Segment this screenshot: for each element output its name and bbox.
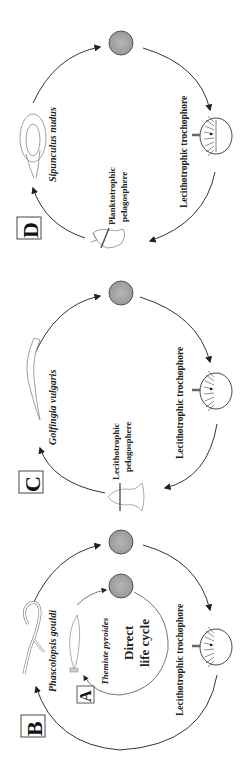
trochophore-icon bbox=[192, 116, 232, 156]
panel-c: Golfingia vulgaris Lecithotrophic trocho… bbox=[19, 281, 232, 511]
arrow-egg-to-trochophore bbox=[143, 545, 210, 610]
arrow-egg-to-trochophore bbox=[143, 48, 210, 110]
golfingia-adult-icon bbox=[27, 338, 40, 420]
sipunculus-adult-icon bbox=[20, 114, 46, 178]
panel-letter-d: D bbox=[18, 222, 43, 238]
species-label-a: Themiste pyroides bbox=[100, 617, 110, 685]
stage-label-larva-d-line2: pelagosphere bbox=[119, 172, 129, 222]
egg-icon bbox=[109, 31, 133, 55]
panel-letter-a: A bbox=[77, 690, 94, 702]
panel-letter-c: C bbox=[20, 476, 45, 492]
arrow-adult-to-egg bbox=[33, 47, 100, 103]
stage-label-larva-c-line1: Lecithotrophic bbox=[111, 423, 121, 480]
arrow-trochophore-to-adult-outer bbox=[36, 675, 217, 750]
panel-letter-b: B bbox=[22, 721, 47, 736]
stage-label-larva-d-line1: Planktotrophic bbox=[107, 167, 117, 225]
trochophore-icon bbox=[192, 371, 232, 411]
panel-b: Phascolopsis gouldi Lecithotrophic troch… bbox=[21, 530, 232, 750]
trochophore-icon bbox=[192, 627, 232, 667]
stage-label-trochophore-d: Lecithotrophic trochophore bbox=[179, 96, 189, 208]
egg-icon bbox=[109, 281, 133, 305]
arrow-adult-to-egg bbox=[33, 296, 100, 358]
panel-a: Themiste pyroides Direct life cycle A bbox=[70, 574, 168, 703]
pelagosphere-icon bbox=[108, 483, 144, 511]
direct-life-cycle-line2: life cycle bbox=[137, 619, 152, 667]
phascolopsis-adult-icon bbox=[24, 602, 44, 674]
species-label-c: Golfingia vulgaris bbox=[47, 370, 58, 445]
egg-icon bbox=[109, 530, 133, 554]
egg-icon bbox=[109, 574, 133, 598]
direct-life-cycle-line1: Direct bbox=[121, 625, 136, 660]
stage-label-trochophore-b: Lecithotrophic trochophore bbox=[175, 604, 185, 716]
stage-label-trochophore-c: Lecithotrophic trochophore bbox=[175, 347, 185, 459]
arrow-adult-to-egg-inner bbox=[77, 590, 106, 605]
pelagosphere-icon bbox=[91, 228, 125, 248]
life-cycle-diagram: Sipunculus nudus Lecithotrophic trochoph… bbox=[0, 0, 249, 759]
themiste-adult-icon bbox=[70, 615, 80, 672]
arrow-larva-to-adult bbox=[40, 448, 105, 493]
panel-d: Sipunculus nudus Lecithotrophic trochoph… bbox=[17, 31, 232, 248]
arrow-trochophore-to-larva bbox=[165, 424, 217, 488]
stage-label-larva-c-line2: pelagosphere bbox=[123, 422, 133, 472]
species-label-d: Sipunculus nudus bbox=[47, 107, 58, 182]
species-label-b: Phascolopsis gouldi bbox=[47, 610, 58, 692]
